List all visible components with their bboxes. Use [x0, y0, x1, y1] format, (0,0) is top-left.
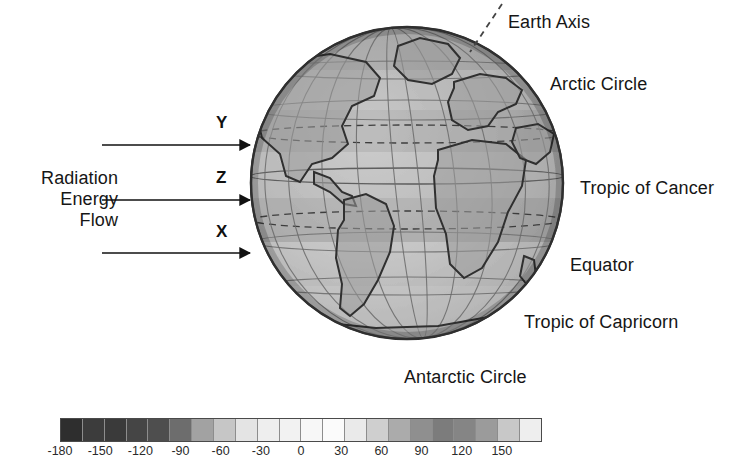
- colorbar-cell: [83, 419, 105, 441]
- colorbar-cell: [520, 419, 541, 441]
- colorbar-cell: [192, 419, 214, 441]
- colorbar: [60, 418, 542, 442]
- colorbar-cell: [127, 419, 149, 441]
- radiation-energy-flow-diagram: Earth Axis Arctic Circle Tropic of Cance…: [0, 0, 754, 469]
- colorbar-cell: [170, 419, 192, 441]
- label-antarctic-circle: Antarctic Circle: [404, 367, 527, 388]
- colorbar-tick: -90: [171, 444, 189, 458]
- earth-globe: [248, 24, 566, 342]
- colorbar-cell: [367, 419, 389, 441]
- colorbar-cell: [61, 419, 83, 441]
- globe-surface: [248, 24, 566, 342]
- ray-label-x: X: [216, 222, 227, 242]
- colorbar-cells: [60, 418, 542, 442]
- ray-label-y: Y: [216, 113, 227, 133]
- colorbar-cell: [345, 419, 367, 441]
- colorbar-cell: [498, 419, 520, 441]
- colorbar-tick: 120: [451, 444, 472, 458]
- colorbar-tick: -180: [47, 444, 72, 458]
- label-radiation-energy-flow: RadiationEnergyFlow: [6, 168, 118, 232]
- label-tropic-of-cancer: Tropic of Cancer: [580, 178, 714, 199]
- label-equator: Equator: [570, 255, 634, 276]
- colorbar-tick: 30: [334, 444, 348, 458]
- colorbar-cell: [301, 419, 323, 441]
- colorbar-cell: [411, 419, 433, 441]
- colorbar-cell: [214, 419, 236, 441]
- label-tropic-of-capricorn: Tropic of Capricorn: [524, 312, 678, 333]
- colorbar-cell: [389, 419, 411, 441]
- colorbar-cell: [258, 419, 280, 441]
- colorbar-tick: -120: [128, 444, 153, 458]
- colorbar-tick: 90: [415, 444, 429, 458]
- label-earth-axis: Earth Axis: [508, 12, 590, 33]
- colorbar-tick: -150: [88, 444, 113, 458]
- colorbar-tick: 0: [298, 444, 305, 458]
- colorbar-cell: [280, 419, 302, 441]
- ray-label-z: Z: [216, 168, 226, 188]
- colorbar-cell: [433, 419, 455, 441]
- colorbar-cell: [323, 419, 345, 441]
- colorbar-tick: 60: [374, 444, 388, 458]
- colorbar-cell: [105, 419, 127, 441]
- colorbar-tick: -30: [252, 444, 270, 458]
- colorbar-cell: [476, 419, 498, 441]
- colorbar-tick: 150: [491, 444, 512, 458]
- radiation-ray-arrows: [100, 130, 260, 270]
- label-arctic-circle: Arctic Circle: [550, 74, 647, 95]
- colorbar-cell: [454, 419, 476, 441]
- colorbar-tick-labels: -180-150-120-90-60-300306090120150: [60, 444, 542, 462]
- globe-illustration: [248, 24, 566, 342]
- colorbar-cell: [148, 419, 170, 441]
- colorbar-tick: -60: [212, 444, 230, 458]
- colorbar-cell: [236, 419, 258, 441]
